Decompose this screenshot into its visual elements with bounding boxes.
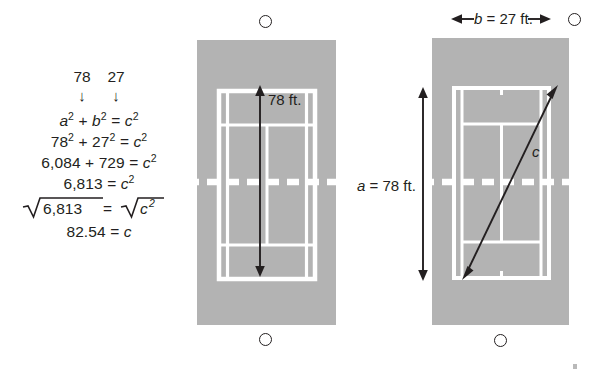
equation-step-2: 782 + 272 = c2 <box>8 131 190 152</box>
equation-step-5: 6,813 = c 2 <box>8 194 190 220</box>
given-value-b: 27 <box>99 66 133 87</box>
equals-sign-1: = <box>111 112 120 129</box>
tennis-ball-icon-top-left-court <box>259 15 272 28</box>
sqrt-equals: = <box>103 200 112 217</box>
exp: 2 <box>141 131 147 143</box>
term-27: 27 <box>92 133 109 150</box>
equals-sign-4: = <box>107 175 116 192</box>
equation-step-4: 6,813 = c2 <box>8 173 190 194</box>
sqrt-radicand: 6,813 <box>43 200 82 217</box>
term-729: 729 <box>99 154 125 171</box>
plus-sign-1: + <box>79 112 88 129</box>
exp: 2 <box>110 131 116 143</box>
tennis-ball-icon-top-right-court <box>568 13 581 26</box>
term-c: c <box>121 175 129 192</box>
term-b: b <box>92 112 101 129</box>
equals-sign-2: = <box>120 133 129 150</box>
sqrt-c: c <box>140 200 148 217</box>
height-dimension-label: a = 78 ft. <box>355 176 418 195</box>
term-c: c <box>143 154 151 171</box>
term-78: 78 <box>51 133 68 150</box>
term-6084: 6,084 <box>41 154 80 171</box>
width-value: = 27 ft. <box>487 10 533 27</box>
term-8254: 82.54 <box>66 223 105 240</box>
term-c: c <box>125 112 133 129</box>
sqrt-equation-graphic: 6,813 = c 2 <box>19 194 179 220</box>
tennis-ball-icon-bottom-right-court <box>494 334 507 347</box>
equals-sign-3: = <box>129 154 138 171</box>
hypotenuse-diagonal-arrow <box>455 82 565 282</box>
exp: 2 <box>151 152 157 164</box>
exp: 2 <box>68 131 74 143</box>
given-values-row: 7827 <box>8 66 190 87</box>
plus-sign-3: + <box>85 154 94 171</box>
tennis-ball-icon-bottom-left-court <box>259 333 272 346</box>
height-value: = 78 ft. <box>370 177 416 194</box>
equation-step-3: 6,084 + 729 = c2 <box>8 152 190 173</box>
exp: 2 <box>68 110 74 122</box>
term-c: c <box>124 223 132 240</box>
width-dimension-label: b = 27 ft. <box>474 10 533 27</box>
exp: 2 <box>133 110 139 122</box>
worked-solution: 7827 ↓↓ a2 + b2 = c2 782 + 272 = c2 6,08… <box>8 66 190 242</box>
height-var: a <box>357 177 365 194</box>
width-var: b <box>474 10 482 27</box>
plus-sign-2: + <box>79 133 88 150</box>
term-6813: 6,813 <box>63 175 102 192</box>
equals-sign-6: = <box>110 223 119 240</box>
exp: 2 <box>129 173 135 185</box>
down-arrow-icon-a: ↓ <box>65 87 99 105</box>
down-arrow-icon-b: ↓ <box>99 87 133 105</box>
length-dimension-label: 78 ft. <box>268 91 301 108</box>
length-dimension-arrow <box>248 84 272 278</box>
scan-artifact-speck <box>573 364 577 369</box>
sqrt-c-exponent: 2 <box>148 197 155 209</box>
equation-step-1: a2 + b2 = c2 <box>8 110 190 131</box>
figure-canvas: 7827 ↓↓ a2 + b2 = c2 782 + 272 = c2 6,08… <box>0 0 607 374</box>
equation-step-6: 82.54 = c <box>8 221 190 242</box>
given-value-a: 78 <box>65 66 99 87</box>
term-a: a <box>59 112 68 129</box>
hypotenuse-label: c <box>532 143 540 160</box>
down-arrows-row: ↓↓ <box>8 87 190 105</box>
exp: 2 <box>101 110 107 122</box>
